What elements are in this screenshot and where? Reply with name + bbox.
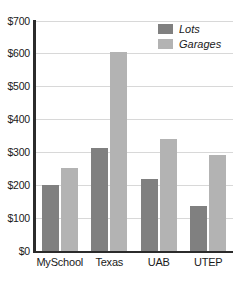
- y-tick-label: $100: [7, 212, 30, 224]
- bar-texas-garages: [110, 52, 127, 250]
- bar-uab-garages: [160, 139, 177, 250]
- bar-myschool-lots: [42, 185, 59, 251]
- bar-myschool-garages: [61, 168, 78, 250]
- legend-label: Garages: [179, 38, 221, 50]
- y-tick-label: $200: [7, 179, 30, 191]
- bar-chart: $0$100$200$300$400$500$600$700 MySchoolT…: [0, 0, 235, 289]
- legend-label: Lots: [179, 23, 200, 35]
- y-tick-label: $300: [7, 146, 30, 158]
- x-tick-label: UTEP: [184, 256, 234, 268]
- x-tick-label: UAB: [134, 256, 184, 268]
- y-tick-label: $500: [7, 80, 30, 92]
- y-axis-line: [33, 20, 36, 253]
- x-tick-label: MySchool: [35, 256, 85, 268]
- x-axis-line: [33, 251, 233, 254]
- bar-utep-garages: [209, 155, 226, 251]
- bar-texas-lots: [91, 148, 108, 251]
- bar-uab-lots: [141, 179, 158, 251]
- chart-legend: LotsGarages: [158, 22, 221, 52]
- y-tick-label: $0: [19, 245, 30, 257]
- y-tick-label: $400: [7, 113, 30, 125]
- bar-utep-lots: [190, 206, 207, 251]
- y-tick-label: $700: [7, 15, 30, 27]
- legend-swatch-icon: [158, 39, 173, 49]
- bar-group: [184, 21, 234, 251]
- legend-item-garages[interactable]: Garages: [158, 37, 221, 51]
- x-tick-label: Texas: [85, 256, 135, 268]
- x-axis: MySchoolTexasUABUTEP: [35, 256, 233, 268]
- bar-group: [35, 21, 85, 251]
- bar-group: [134, 21, 184, 251]
- y-axis: $0$100$200$300$400$500$600$700: [0, 0, 33, 289]
- bar-group: [85, 21, 135, 251]
- plot-area: [33, 20, 233, 253]
- bars-layer: [35, 21, 233, 251]
- y-tick-label: $600: [7, 47, 30, 59]
- legend-swatch-icon: [158, 24, 173, 34]
- legend-item-lots[interactable]: Lots: [158, 22, 221, 36]
